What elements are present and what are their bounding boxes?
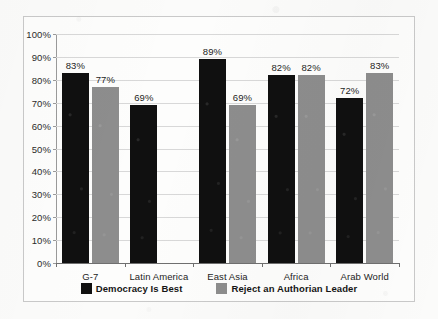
bar-value-label: 77% (96, 74, 115, 85)
y-axis-tick-mark (53, 103, 56, 104)
legend-swatch (216, 283, 227, 294)
x-axis-category-label: East Asia (207, 271, 248, 282)
y-axis-tick-label: 100% (26, 29, 51, 40)
y-axis-tick-label: 20% (32, 212, 51, 223)
bar (199, 59, 226, 263)
y-axis-tick-mark (53, 171, 56, 172)
y-axis-tick-label: 80% (32, 74, 51, 85)
bar-value-label: 89% (203, 46, 222, 57)
bar-value-label: 72% (340, 85, 359, 96)
bar (298, 75, 325, 263)
x-axis-tick-mark (56, 263, 57, 267)
y-axis-tick-label: 90% (32, 51, 51, 62)
bar (268, 75, 295, 263)
y-axis-tick-mark (53, 217, 56, 218)
bar (229, 105, 256, 263)
bar (62, 73, 89, 263)
chart-frame: 0%10%20%30%40%50%60%70%80%90%100% 83%77%… (23, 16, 415, 302)
y-axis-tick-mark (53, 80, 56, 81)
y-axis-tick-label: 30% (32, 189, 51, 200)
bar-value-label: 69% (233, 92, 252, 103)
x-axis-tick-mark (399, 263, 400, 267)
legend-entry[interactable]: Democracy Is Best (81, 283, 183, 294)
bar (336, 98, 363, 263)
legend-label: Democracy Is Best (96, 283, 183, 294)
y-axis-tick-label: 70% (32, 97, 51, 108)
y-axis-tick-mark (53, 57, 56, 58)
bar-value-label: 83% (370, 60, 389, 71)
plot-area: 0%10%20%30%40%50%60%70%80%90%100% 83%77%… (56, 34, 399, 263)
bar (130, 105, 157, 263)
legend-label: Reject an Authorian Leader (231, 283, 357, 294)
chart-legend: Democracy Is BestReject an Authorian Lea… (24, 283, 414, 294)
y-axis-tick-mark (53, 126, 56, 127)
x-axis-tick-mark (193, 263, 194, 267)
bar-value-label: 69% (134, 92, 153, 103)
y-axis-tick-mark (53, 240, 56, 241)
bar (92, 87, 119, 263)
gridline (56, 57, 399, 58)
x-axis-tick-mark (330, 263, 331, 267)
gridline (56, 34, 399, 35)
y-axis-tick-label: 40% (32, 166, 51, 177)
bar-value-label: 82% (301, 62, 320, 73)
x-axis-category-label: Arab World (341, 271, 389, 282)
bar-value-label: 83% (66, 60, 85, 71)
x-axis-tick-mark (262, 263, 263, 267)
bar (366, 73, 393, 263)
bar-value-label: 82% (271, 62, 290, 73)
x-axis-category-label: Latin America (129, 271, 188, 282)
x-axis-category-label: Africa (284, 271, 309, 282)
x-axis-tick-mark (125, 263, 126, 267)
x-axis-category-label: G-7 (82, 271, 98, 282)
legend-swatch (81, 283, 92, 294)
y-axis-tick-mark (53, 34, 56, 35)
legend-entry[interactable]: Reject an Authorian Leader (216, 283, 357, 294)
y-axis-tick-label: 10% (32, 235, 51, 246)
y-axis-tick-label: 50% (32, 143, 51, 154)
y-axis-tick-mark (53, 149, 56, 150)
x-axis-line: G-7Latin AmericaEast AsiaAfricaArab Worl… (56, 263, 400, 264)
y-axis-tick-label: 0% (37, 258, 51, 269)
y-axis-tick-mark (53, 194, 56, 195)
y-axis-tick-label: 60% (32, 120, 51, 131)
